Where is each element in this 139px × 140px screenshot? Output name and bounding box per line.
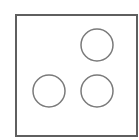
circle-top-right [81,29,113,61]
dice-face-diagram [0,0,139,140]
square-frame [16,15,137,136]
circle-bottom-right [81,75,113,107]
circle-bottom-left [33,75,65,107]
